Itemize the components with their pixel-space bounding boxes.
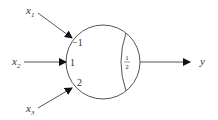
weight-2: 1 (70, 57, 75, 68)
input-label-2: x2 (11, 55, 21, 70)
threshold-numerator: 1 (125, 54, 129, 62)
neuron-diagram: x1 x2 x3 −1 1 2 1 2 y (0, 0, 218, 120)
output-label: y (199, 55, 205, 67)
input-label-1: x1 (25, 4, 34, 19)
threshold-denominator: 2 (125, 63, 129, 71)
input-arrow-3 (38, 88, 72, 108)
weight-1: −1 (72, 37, 83, 48)
input-arrow-1 (38, 13, 72, 38)
diagram-canvas: x1 x2 x3 −1 1 2 1 2 y (0, 0, 218, 120)
input-label-3: x3 (25, 102, 35, 117)
weight-3: 2 (77, 77, 82, 88)
